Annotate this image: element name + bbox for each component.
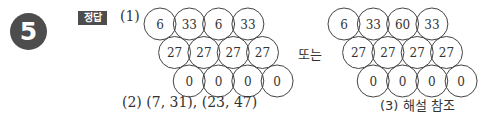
or-text: 또는 [298, 44, 322, 63]
part2-answer: (2) (7, 31), (23, 47) [122, 94, 257, 110]
number-circle: 27 [401, 37, 433, 69]
svg-text:6: 6 [340, 18, 348, 32]
number-circle: 27 [372, 37, 404, 69]
number-circle: 0 [357, 65, 389, 97]
svg-text:0: 0 [369, 75, 377, 89]
svg-text:33: 33 [366, 18, 381, 32]
number-circle: 60 [387, 8, 419, 40]
number-circle: 27 [343, 37, 375, 69]
svg-text:27: 27 [380, 46, 395, 60]
number-circle: 0 [445, 65, 477, 97]
number-circle: 0 [387, 65, 419, 97]
part3-answer: (3) 해설 참조 [380, 95, 455, 114]
svg-text:0: 0 [457, 75, 465, 89]
svg-text:27: 27 [351, 46, 366, 60]
number-circle: 0 [416, 65, 448, 97]
number-circle: 33 [416, 8, 448, 40]
number-circle: 6 [328, 8, 360, 40]
svg-text:33: 33 [424, 18, 439, 32]
number-circle: 33 [357, 8, 389, 40]
number-circle: 27 [431, 37, 463, 69]
svg-text:27: 27 [410, 46, 425, 60]
svg-text:60: 60 [395, 18, 410, 32]
svg-text:0: 0 [399, 75, 407, 89]
svg-text:27: 27 [439, 46, 454, 60]
svg-text:0: 0 [428, 75, 436, 89]
